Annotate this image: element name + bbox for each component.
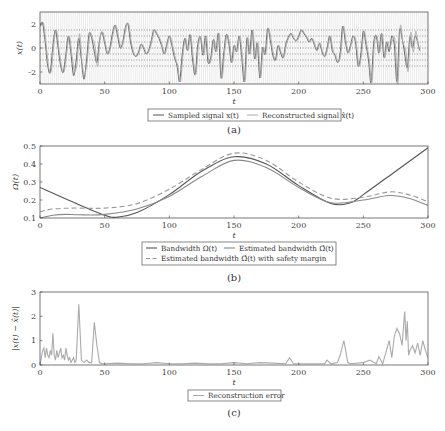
y-tick-label: -2 bbox=[28, 68, 36, 77]
x-tick-label: 50 bbox=[100, 221, 110, 230]
x-tick-label: 100 bbox=[162, 368, 177, 377]
x-tick-label: 250 bbox=[356, 87, 371, 96]
y-tick-label: 0.2 bbox=[23, 196, 36, 205]
legend-entry: Estimated bandwidth Ω̂(t) bbox=[239, 244, 334, 253]
series-group bbox=[40, 304, 428, 365]
x-tick-label: 300 bbox=[420, 221, 435, 230]
x-tick-label: 200 bbox=[291, 221, 306, 230]
series-bandwidth-t bbox=[40, 148, 428, 218]
panel-c: 0501001502002503000123t|x(t) − x̂(t)|Rec… bbox=[11, 288, 436, 418]
x-tick-label: 200 bbox=[291, 87, 306, 96]
legend: Reconstruction error bbox=[188, 390, 285, 401]
series-estimated-bandwidth-t bbox=[40, 160, 428, 218]
series-estimated-bandwidth-t-with-safety-margin bbox=[40, 153, 428, 212]
panel-b: 0501001502002503000.10.20.30.40.5tΩ(t)Ba… bbox=[11, 142, 436, 283]
x-tick-label: 50 bbox=[100, 368, 110, 377]
y-tick-label: 0 bbox=[31, 361, 36, 370]
y-tick-label: 0 bbox=[31, 44, 36, 53]
x-tick-label: 150 bbox=[226, 368, 241, 377]
x-tick-label: 50 bbox=[100, 87, 110, 96]
panel-a: 050100150200250300-202tx(t)Sampled signa… bbox=[15, 12, 436, 135]
legend-entry: Estimated bandwidth Ω̂(t) with safety ma… bbox=[161, 254, 327, 263]
series-group bbox=[40, 148, 428, 218]
x-tick-label: 150 bbox=[226, 221, 241, 230]
x-tick-label: 0 bbox=[37, 221, 42, 230]
x-tick-label: 300 bbox=[420, 368, 435, 377]
y-tick-label: 2 bbox=[31, 20, 36, 29]
legend: Sampled signal x(t)Reconstructed signal … bbox=[148, 109, 354, 121]
y-axis-label: Ω(t) bbox=[11, 174, 20, 191]
y-tick-label: 2 bbox=[31, 312, 36, 321]
series-sampled-signal-x-t bbox=[40, 22, 420, 83]
legend-entry: Bandwidth Ω(t) bbox=[161, 244, 217, 253]
x-tick-label: 250 bbox=[356, 368, 371, 377]
x-tick-label: 150 bbox=[226, 87, 241, 96]
y-axis-label: |x(t) − x̂(t)| bbox=[11, 306, 20, 351]
panel-caption: (c) bbox=[227, 407, 241, 418]
y-tick-label: 1 bbox=[31, 336, 36, 345]
x-axis-label: t bbox=[232, 231, 236, 240]
x-tick-label: 200 bbox=[291, 368, 306, 377]
legend-entry: Reconstructed signal x̂(t) bbox=[262, 111, 354, 120]
legend-entry: Sampled signal x(t) bbox=[168, 111, 239, 120]
x-axis-label: t bbox=[232, 378, 236, 387]
y-tick-label: 0.1 bbox=[23, 214, 36, 223]
x-tick-label: 0 bbox=[37, 87, 42, 96]
series-reconstruction-error bbox=[40, 304, 428, 365]
figure: 050100150200250300-202tx(t)Sampled signa… bbox=[0, 0, 445, 431]
x-tick-label: 250 bbox=[356, 221, 371, 230]
x-tick-label: 100 bbox=[162, 221, 177, 230]
y-tick-label: 0.4 bbox=[23, 160, 36, 169]
panel-caption: (b) bbox=[227, 272, 241, 283]
panel-caption: (a) bbox=[227, 124, 241, 135]
y-tick-label: 0.3 bbox=[23, 178, 36, 187]
x-tick-label: 100 bbox=[162, 87, 177, 96]
x-axis-label: t bbox=[232, 97, 236, 106]
y-tick-label: 0.5 bbox=[23, 142, 36, 151]
x-tick-label: 0 bbox=[37, 368, 42, 377]
x-tick-label: 300 bbox=[420, 87, 435, 96]
legend-entry: Reconstruction error bbox=[208, 391, 285, 400]
y-axis-label: x(t) bbox=[15, 41, 24, 55]
y-tick-label: 3 bbox=[31, 288, 36, 297]
legend: Bandwidth Ω(t)Estimated bandwidth Ω̂(t)E… bbox=[142, 242, 336, 265]
